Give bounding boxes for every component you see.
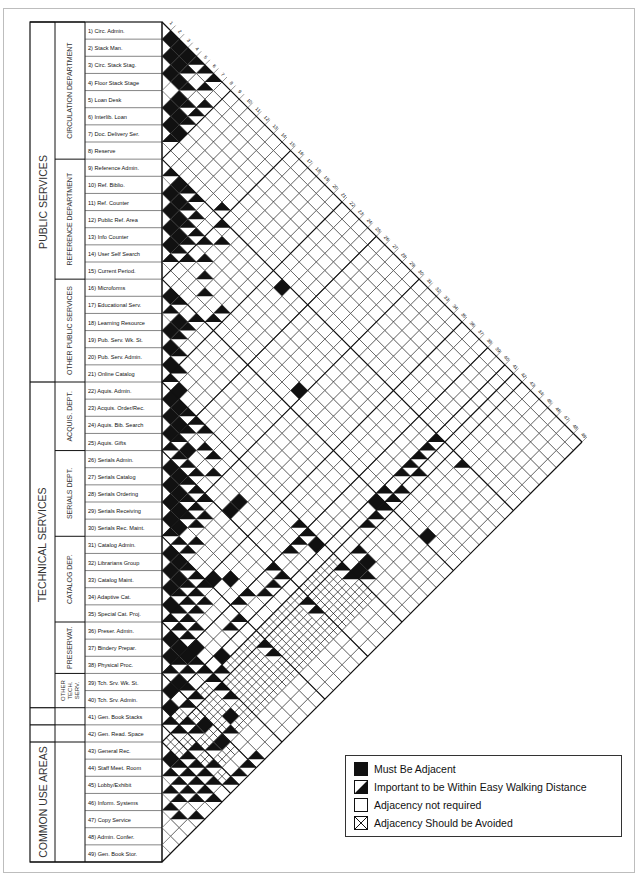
diagonal-index: 30 <box>417 269 425 277</box>
diagonal-index: 7 <box>220 72 226 78</box>
department-label: ACQUIS. DEPT. <box>67 391 75 442</box>
legend-label: Adjacency Should be Avoided <box>374 817 513 829</box>
diagonal-index: 16 <box>297 149 305 157</box>
legend: Must Be Adjacent Important to be Within … <box>345 755 622 837</box>
diagonal-index: 14 <box>280 132 288 140</box>
not-required-swatch-icon <box>354 798 368 812</box>
space-name: 41) Gen. Book Stacks <box>88 714 143 720</box>
diagonal-index: 43 <box>529 380 537 388</box>
important-swatch-icon <box>354 780 368 794</box>
diagonal-index: 37 <box>477 329 485 337</box>
legend-not-required: Adjacency not required <box>354 796 621 814</box>
legend-must-adjacent: Must Be Adjacent <box>354 760 621 778</box>
diagonal-index: 47 <box>563 415 571 423</box>
space-name: 3) Circ. Stack Stag. <box>88 62 137 68</box>
diagonal-index: 21 <box>340 192 348 200</box>
diagonal-index: 10 <box>246 98 254 106</box>
diagonal-index: 34 <box>451 303 459 311</box>
space-name: 32) Librarians Group <box>88 560 139 566</box>
space-name: 19) Pub. Serv. Wk. St. <box>88 337 143 343</box>
space-name: 42) Gen. Read. Space <box>88 731 144 737</box>
space-name: 33) Catalog Maint. <box>88 577 134 583</box>
department-label: OTHER <box>61 679 67 701</box>
diagonal-index: 9 <box>237 89 243 95</box>
diagonal-index: 39 <box>494 346 502 354</box>
diagonal-index: 38 <box>486 338 494 346</box>
space-name: 34) Adaptive Cat. <box>88 594 131 600</box>
avoid-swatch-icon <box>354 816 368 830</box>
diagonal-index: 49 <box>580 432 588 440</box>
diagonal-index: 6 <box>211 63 217 69</box>
department-label: TECH. <box>68 681 74 699</box>
space-name: 20) Pub. Serv. Admin. <box>88 354 142 360</box>
diagonal-index: 27 <box>391 243 399 251</box>
department-label: SERIALS DEPT. <box>67 468 74 519</box>
diagonal-index: 15 <box>289 140 297 148</box>
space-name: 22) Aquis. Admin. <box>88 388 132 394</box>
space-name: 36) Preser. Admin. <box>88 628 134 634</box>
legend-label: Important to be Within Easy Walking Dist… <box>374 781 587 793</box>
space-name: 39) Tch. Srv. Wk. St. <box>88 680 139 686</box>
legend-label: Adjacency not required <box>374 799 481 811</box>
diagonal-index: 28 <box>400 252 408 260</box>
space-name: 46) Inform. Systems <box>88 800 138 806</box>
space-name: 30) Serials Rec. Maint. <box>88 525 145 531</box>
department-label: PRESERVAT. <box>67 626 74 668</box>
diagonal-index: 35 <box>460 312 468 320</box>
adjacency-matrix-diagram: 1) Circ. Admin.2) Stack Man.3) Circ. Sta… <box>0 0 640 878</box>
space-name: 18) Learning Resource <box>88 320 145 326</box>
diagonal-index: 17 <box>306 158 314 166</box>
space-name: 14) User Self Search <box>88 251 140 257</box>
department-label: SERV. <box>75 682 81 700</box>
space-name: 24) Aquis. Bib. Search <box>88 422 143 428</box>
diagonal-index: 1 <box>169 20 175 26</box>
diagonal-index: 26 <box>383 235 391 243</box>
space-name: 7) Doc. Delivery Ser. <box>88 131 140 137</box>
space-name: 49) Gen. Book Stor. <box>88 851 138 857</box>
diagonal-index: 13 <box>271 123 279 131</box>
diagonal-index: 25 <box>374 226 382 234</box>
space-name: 47) Copy Service <box>88 817 131 823</box>
diagonal-index: 24 <box>366 218 374 226</box>
space-name: 28) Serials Ordering <box>88 491 138 497</box>
space-name: 17) Educational Serv. <box>88 302 142 308</box>
space-name: 29) Serials Receiving <box>88 508 141 514</box>
space-name: 10) Ref. Biblio. <box>88 182 125 188</box>
diagonal-index: 23 <box>357 209 365 217</box>
department-label: REFERENCE DEPARTMENT <box>67 172 74 265</box>
department-label: CATALOG DEP. <box>67 554 74 604</box>
space-name: 35) Special Cat. Proj. <box>88 611 141 617</box>
space-name: 26) Serials Admin. <box>88 457 134 463</box>
diagonal-index: 8 <box>229 80 235 86</box>
must-adjacent-swatch-icon <box>354 762 368 776</box>
diagonal-index: 48 <box>571 423 579 431</box>
legend-avoid: Adjacency Should be Avoided <box>354 814 621 832</box>
group-label: COMMON USE AREAS <box>37 746 49 857</box>
diagonal-index: 40 <box>503 355 511 363</box>
diagonal-index: 2 <box>177 29 183 35</box>
space-name: 5) Loan Desk <box>88 97 121 103</box>
group-label: PUBLIC SERVICES <box>37 155 49 249</box>
adjacency-matrix <box>162 22 582 862</box>
space-name: 31) Catalog Admin. <box>88 542 136 548</box>
diagonal-index: 5 <box>203 55 209 61</box>
legend-important: Important to be Within Easy Walking Dist… <box>354 778 621 796</box>
space-name: 1) Circ. Admin. <box>88 28 125 34</box>
space-name: 16) Microforms <box>88 285 125 291</box>
space-name: 37) Bindery Prepar. <box>88 645 137 651</box>
diagonal-index: 41 <box>511 363 519 371</box>
diagonal-index: 22 <box>349 200 357 208</box>
legend-label: Must Be Adjacent <box>374 763 456 775</box>
space-name: 25) Aquis. Gifts <box>88 440 126 446</box>
space-name: 27) Serials Catalog <box>88 474 136 480</box>
space-name: 40) Tch. Srv. Admin. <box>88 697 138 703</box>
diagonal-index: 12 <box>263 115 271 123</box>
diagonal-index: 4 <box>194 46 200 52</box>
space-name: 23) Acquis. Order/Rec. <box>88 405 145 411</box>
space-name: 44) Staff Meet. Room <box>88 765 141 771</box>
diagonal-index: 36 <box>469 320 477 328</box>
space-name: 6) Interlib. Loan <box>88 114 127 120</box>
department-label: CIRCULATION DEPARTMENT <box>67 42 74 139</box>
space-name: 4) Floor Stack Stage <box>88 80 139 86</box>
diagonal-index: 18 <box>314 166 322 174</box>
